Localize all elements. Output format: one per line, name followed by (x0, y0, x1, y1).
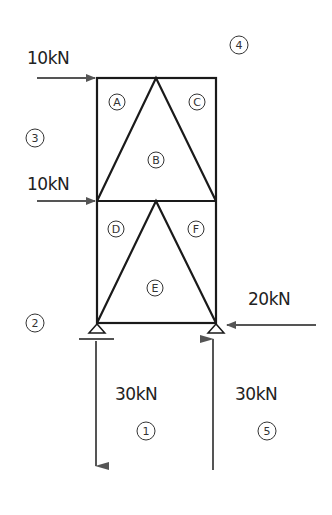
force-arrows (37, 78, 316, 470)
space-label-4: 4 (236, 39, 243, 52)
truss-diagram: 10kN 10kN 20kN 30kN 30kN A B C D E F 1 2… (0, 0, 332, 515)
space-label-5: 5 (264, 425, 271, 438)
label-reaction-right: 30kN (235, 384, 277, 404)
label-load-bottom-right: 20kN (248, 289, 290, 309)
label-reaction-left: 30kN (115, 384, 157, 404)
space-label-c: C (193, 96, 201, 109)
label-load-top-left: 10kN (27, 48, 69, 68)
label-load-mid-left: 10kN (27, 174, 69, 194)
space-label-f: F (193, 223, 199, 236)
space-label-b: B (152, 154, 160, 167)
space-label-1: 1 (143, 425, 150, 438)
external-space-labels (26, 36, 276, 440)
space-label-2: 2 (32, 317, 39, 330)
internal-space-labels (108, 94, 205, 296)
lower-diagonals (97, 201, 216, 323)
space-label-e: E (152, 282, 159, 295)
support-left (79, 324, 114, 339)
space-label-a: A (113, 96, 121, 109)
support-right (208, 324, 224, 333)
space-label-3: 3 (32, 132, 39, 145)
space-label-d: D (112, 223, 120, 236)
